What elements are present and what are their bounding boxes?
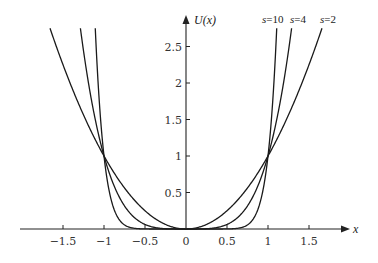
x-tick-label: −1.5 xyxy=(50,235,77,248)
y-tick-label: 1.5 xyxy=(165,114,183,127)
chart-figure: −1.5−1−0.500.511.5 0.511.522.5 x U(x) s=… xyxy=(0,0,378,263)
curve-label-s-10: s=10 xyxy=(262,13,284,25)
y-axis-label: U(x) xyxy=(194,13,216,27)
curve-label-s-4: s=4 xyxy=(290,13,306,25)
y-tick-label: 2 xyxy=(175,77,182,90)
curve-label-s-2: s=2 xyxy=(320,13,336,25)
x-tick-label: −0.5 xyxy=(132,235,159,248)
x-tick-label: 1 xyxy=(265,235,272,248)
x-tick-label: 1.5 xyxy=(300,235,318,248)
axes-group xyxy=(20,15,350,233)
potential-plot: −1.5−1−0.500.511.5 0.511.522.5 x U(x) s=… xyxy=(0,0,378,263)
x-tick-label: 0 xyxy=(183,235,190,248)
x-axis-label: x xyxy=(352,222,359,236)
x-tick-label: 0.5 xyxy=(218,235,236,248)
y-tick-label: 2.5 xyxy=(165,41,183,54)
y-tick-label: 0.5 xyxy=(165,187,183,200)
x-axis-arrow-icon xyxy=(341,226,350,233)
y-tick-label: 1 xyxy=(175,150,182,163)
y-axis-arrow-icon xyxy=(183,15,190,24)
x-tick-label: −1 xyxy=(96,235,112,248)
curve-labels: s=2s=4s=10 xyxy=(262,13,336,25)
